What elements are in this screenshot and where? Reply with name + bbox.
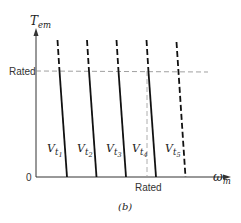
curve-label-vt5: Vt5 — [165, 142, 181, 159]
figure-caption: (b) — [118, 201, 132, 212]
y-axis-label: Tem — [30, 14, 51, 30]
curve-vt4 — [147, 40, 157, 177]
torque-speed-diagram: Tem Rated 0 Rated ωm Vt1 Vt2 Vt3 Vt4 Vt5… — [0, 0, 241, 223]
y-axis — [34, 28, 39, 177]
curve-label-vt4: Vt4 — [132, 142, 148, 159]
rated-torque-line — [36, 71, 208, 72]
curve-label-vt1: Vt1 — [47, 142, 63, 159]
curve-label-vt2: Vt2 — [77, 142, 93, 159]
rated-speed-label: Rated — [135, 182, 162, 193]
rated-torque-label: Rated — [9, 66, 36, 77]
x-axis-label: ωm — [213, 170, 231, 186]
curve-label-vt3: Vt3 — [106, 142, 122, 159]
origin-label: 0 — [26, 172, 32, 183]
x-axis — [36, 175, 231, 180]
